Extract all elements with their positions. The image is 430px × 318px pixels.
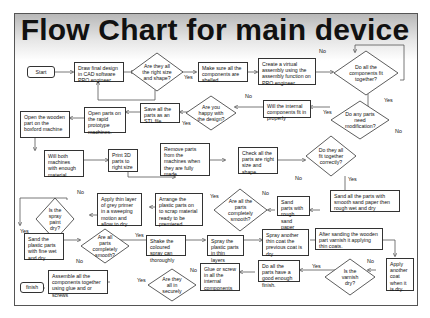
print-3d-node: Print 3D parts to right size bbox=[108, 149, 138, 172]
happy-label: Are you happy with the design? bbox=[197, 104, 225, 123]
edge-label-yes: Yes bbox=[323, 109, 332, 115]
shake-label: Shake the coloured spray can thoroughly bbox=[150, 238, 174, 263]
edge-label-no: No bbox=[190, 267, 197, 273]
enough-material-label: Will both machines with enough material. bbox=[48, 153, 76, 178]
modification-label: Do any parts need modification? bbox=[345, 111, 375, 130]
check-parts-node: Check all the parts are right size and s… bbox=[238, 147, 278, 174]
right-size-label: Are they all the right size and shape? bbox=[142, 63, 172, 82]
assemble-node: Assemble all the components together usi… bbox=[48, 270, 108, 294]
spray-another-node: Spray another thin coat the previous coa… bbox=[262, 229, 309, 256]
shake-node: Shake the coloured spray can thoroughly bbox=[146, 235, 186, 256]
sand-fine-label: Sand the plastic parts with fine wet and… bbox=[28, 236, 57, 261]
save-stl-label: Save all the parts as an STL file bbox=[144, 106, 171, 124]
shelled-node: Make sure all the components are shelled… bbox=[198, 62, 248, 82]
edge-label-yes: Yes bbox=[20, 228, 29, 234]
sand-rough-node: Sand parts with rough sand paper bbox=[277, 196, 310, 216]
open-wood-node: Open the wooden part on the boxford mach… bbox=[20, 111, 70, 138]
start-node: Start bbox=[27, 66, 55, 78]
parts-smooth-label: Are all the parts completely smooth? bbox=[228, 198, 254, 223]
edge-label-no: No bbox=[245, 93, 252, 99]
edge-label-no: No bbox=[76, 258, 83, 264]
fit-together-label: Do all the components fit together? bbox=[349, 64, 383, 83]
good-finish-node: Do all the parts have a good enough fini… bbox=[258, 260, 300, 282]
varnish-dry-label: Is the varnish dry? bbox=[336, 268, 364, 287]
internal-fit-node: Will the internal components fit in prop… bbox=[263, 100, 311, 118]
edge-label-yes: Yes bbox=[312, 263, 321, 269]
print-3d-label: Print 3D parts to right size bbox=[112, 152, 133, 170]
glue-screw-label: Glue or screw in all the internal compon… bbox=[204, 266, 236, 291]
edge-label-yes: Yes bbox=[135, 232, 144, 238]
draw-design-label: Draw final design in CAD software PRO en… bbox=[78, 65, 118, 83]
fit-correctly-decision: Do they all fit together correctly? bbox=[305, 135, 357, 177]
spray-another-label: Spray another thin coat the previous coa… bbox=[266, 232, 302, 257]
edge-label-no: No bbox=[262, 190, 269, 196]
arrange-label: Arrange the plastic parts on to scrap ma… bbox=[159, 196, 197, 227]
draw-design-node: Draw final design in CAD software PRO en… bbox=[74, 62, 124, 82]
open-wood-label: Open the wooden part on the boxford mach… bbox=[24, 114, 65, 132]
primer-label: Apply thin layer of grey primer in a swe… bbox=[101, 196, 136, 227]
fit-together-decision: Do all the components fit together? bbox=[333, 50, 399, 96]
right-size-decision: Are they all the right size and shape? bbox=[130, 52, 184, 92]
remove-parts-node: Remove parts from the machines when they… bbox=[160, 143, 210, 176]
arrange-node: Arrange the plastic parts on to scrap ma… bbox=[155, 193, 203, 226]
finish-node: finish bbox=[20, 282, 44, 293]
open-rapid-node: Open parts on the rapid prototype machin… bbox=[84, 107, 126, 133]
primer-node: Apply thin layer of grey primer in a swe… bbox=[97, 193, 142, 226]
edge-label-no: No bbox=[367, 258, 374, 264]
parts-smooth2-decision: Are all parts completely smooth? bbox=[80, 228, 130, 264]
check-parts-label: Check all the parts are right size and s… bbox=[242, 150, 274, 175]
varnish-label: After sanding the wooden part varnish it… bbox=[319, 231, 378, 249]
edge-label-no: No bbox=[395, 128, 402, 134]
sand-fine-node: Sand the plastic parts with fine wet and… bbox=[24, 233, 64, 260]
spray-dry-label: Is the spray paint dry? bbox=[46, 207, 64, 232]
another-coat-label: Apply another coat when it is dry. bbox=[390, 261, 408, 292]
edge-label-yes: Yes bbox=[182, 120, 191, 126]
another-coat-node: Apply another coat when it is dry. bbox=[386, 258, 414, 291]
remove-parts-label: Remove parts from the machines when they… bbox=[164, 146, 200, 177]
edge-label-yes: Yes bbox=[384, 97, 393, 103]
save-stl-node: Save all the parts as an STL file bbox=[140, 103, 180, 123]
fit-correctly-label: Do they all fit together correctly? bbox=[317, 147, 345, 166]
edge-label-yes: Yes bbox=[348, 176, 357, 182]
edge-label-no: No bbox=[295, 175, 302, 181]
finish-label: finish bbox=[26, 284, 38, 290]
virtual-assembly-label: Create a virtual assembly using the asse… bbox=[262, 61, 311, 86]
parts-smooth2-label: Are all parts completely smooth? bbox=[92, 234, 118, 259]
assemble-label: Assemble all the components together usi… bbox=[52, 273, 101, 298]
modification-decision: Do any parts need modification? bbox=[330, 100, 390, 140]
edge-label-yes: Yes bbox=[210, 193, 219, 199]
edge-label-no: No bbox=[319, 48, 326, 54]
happy-decision: Are you happy with the design? bbox=[185, 95, 237, 131]
parts-smooth-decision: Are all the parts completely smooth? bbox=[213, 188, 268, 232]
sand-smooth-node: Sand all the parts with smooth sand pape… bbox=[330, 190, 400, 212]
varnish-node: After sanding the wooden part varnish it… bbox=[315, 228, 383, 250]
secure-label: Are they all in securely bbox=[161, 276, 183, 295]
edge-label-yes: Yes bbox=[137, 277, 146, 283]
glue-screw-node: Glue or screw in all the internal compon… bbox=[200, 263, 240, 291]
start-label: Start bbox=[36, 69, 47, 75]
shelled-label: Make sure all the components are shelled… bbox=[202, 65, 242, 83]
open-rapid-label: Open parts on the rapid prototype machin… bbox=[88, 110, 121, 135]
secure-decision: Are they all in securely bbox=[147, 268, 197, 302]
sand-smooth-label: Sand all the parts with smooth sand pape… bbox=[334, 193, 390, 211]
spray-thin-node: Spray the plastic parts in thin layers bbox=[207, 235, 244, 256]
enough-material-node: Will both machines with enough material. bbox=[44, 150, 84, 177]
edge-label-no: No bbox=[77, 189, 84, 195]
edge-label-yes: Yes bbox=[184, 74, 193, 80]
virtual-assembly-node: Create a virtual assembly using the asse… bbox=[258, 58, 316, 85]
